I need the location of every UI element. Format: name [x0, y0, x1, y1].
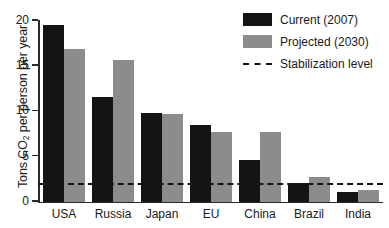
y-axis-tick-label: 15: [16, 58, 29, 72]
bar-projected[interactable]: [162, 114, 183, 202]
y-axis-title-prefix: Tons CO: [16, 140, 30, 188]
y-axis-tick: 15: [32, 64, 38, 66]
bar-projected[interactable]: [309, 177, 330, 201]
bar-current[interactable]: [337, 192, 358, 202]
bar-projected[interactable]: [64, 49, 85, 201]
y-axis-title-suffix: per person per year: [16, 25, 30, 136]
y-axis-tick-label: 10: [16, 103, 29, 117]
bar-group: EU: [187, 21, 236, 202]
legend-entry-current: Current (2007): [243, 10, 389, 29]
y-axis-tick: 10: [32, 110, 38, 112]
bar-current[interactable]: [92, 97, 113, 201]
y-axis-tick: 0: [32, 200, 38, 202]
x-axis-category-label: EU: [203, 207, 220, 221]
chart-legend: Current (2007) Projected (2030) Stabiliz…: [243, 10, 389, 76]
y-axis-title-subscript: 2: [21, 136, 31, 141]
legend-label-current: Current (2007): [280, 13, 358, 27]
x-axis-category-label: India: [345, 207, 371, 221]
bar-group: Russia: [89, 21, 138, 202]
bar-projected[interactable]: [113, 60, 134, 201]
x-axis-category-label: Brazil: [294, 207, 324, 221]
legend-entry-projected: Projected (2030): [243, 32, 389, 51]
bar-current[interactable]: [141, 113, 162, 202]
x-axis-category-label: China: [244, 207, 275, 221]
legend-swatch-current: [243, 13, 272, 26]
legend-entry-stabilization: Stabilization level: [243, 54, 389, 73]
x-axis-category-label: Russia: [95, 207, 132, 221]
legend-swatch-projected: [243, 35, 272, 48]
y-axis-tick-label: 5: [22, 149, 29, 163]
bar-current[interactable]: [288, 183, 309, 202]
x-axis-category-label: USA: [52, 207, 77, 221]
legend-label-stabilization: Stabilization level: [280, 57, 373, 71]
legend-swatch-stabilization-line: [243, 63, 272, 65]
bar-projected[interactable]: [211, 132, 232, 202]
bar-group: Japan: [138, 21, 187, 202]
stabilization-level-line: [38, 183, 383, 185]
bar-current[interactable]: [43, 25, 64, 201]
bar-current[interactable]: [239, 160, 260, 202]
bar-current[interactable]: [190, 125, 211, 202]
bar-projected[interactable]: [358, 190, 379, 202]
x-axis-line: [38, 202, 383, 204]
bar-projected[interactable]: [260, 132, 281, 202]
emissions-bar-chart: Tons CO2 per person per year 05101520 US…: [0, 0, 389, 228]
bar-group: USA: [40, 21, 89, 202]
y-axis-tick: 20: [32, 19, 38, 21]
y-axis-tick-label: 20: [16, 13, 29, 27]
legend-label-projected: Projected (2030): [280, 35, 369, 49]
x-axis-category-label: Japan: [146, 207, 179, 221]
y-axis-tick-label: 0: [22, 194, 29, 208]
y-axis-tick: 5: [32, 155, 38, 157]
